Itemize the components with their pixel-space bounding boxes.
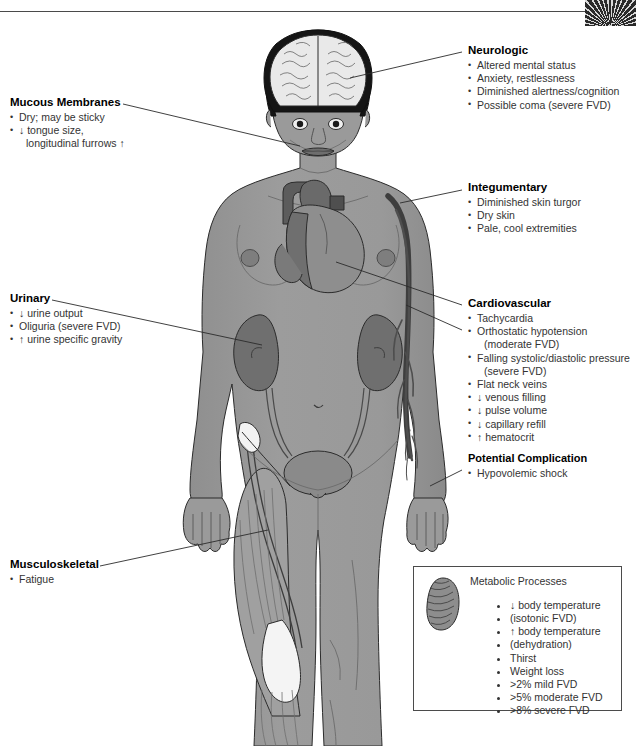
block-mucous-membranes: Mucous Membranes Dry; may be sticky ↓ to…: [10, 95, 125, 151]
bladder: [284, 451, 352, 495]
list-urinary: ↓ urine output Oliguria (severe FVD) ↑ u…: [10, 307, 122, 347]
mitochondrion-icon: [424, 576, 462, 632]
list-musculoskeletal: Fatigue: [10, 573, 99, 586]
metabolic-content: Metabolic Processes ↓ body temperature (…: [470, 575, 603, 728]
block-cardiovascular: Cardiovascular Tachycardia Orthostatic h…: [468, 296, 630, 480]
heading-metabolic-processes: Metabolic Processes: [470, 575, 603, 588]
list-item: Possible coma (severe FVD): [468, 99, 619, 112]
hand-right: [407, 498, 448, 551]
nipple-left: [241, 250, 259, 267]
heading-musculoskeletal: Musculoskeletal: [10, 557, 99, 572]
metabolic-processes-box: Metabolic Processes ↓ body temperature (…: [413, 566, 622, 711]
list-item: Diminished skin turgor: [468, 196, 581, 209]
list-item: ↑ urine specific gravity: [10, 333, 122, 346]
list-item-continuation: (severe FVD): [468, 365, 630, 378]
head: [264, 30, 372, 156]
list-metabolic: ↓ body temperature (isotonic FVD) ↑ body…: [470, 599, 603, 718]
list-item: Oliguria (severe FVD): [10, 320, 122, 333]
list-potential-complication: Hypovolemic shock: [468, 467, 630, 480]
heading-mucous-membranes: Mucous Membranes: [10, 95, 125, 110]
heading-urinary: Urinary: [10, 291, 122, 306]
list-item: Altered mental status: [468, 59, 619, 72]
list-item: Falling systolic/diastolic pressure: [468, 352, 630, 365]
list-item: Pale, cool extremities: [468, 222, 581, 235]
hand-left: [183, 498, 230, 551]
list-item: Orthostatic hypotension: [468, 325, 630, 338]
list-item-continuation: (dehydration): [510, 638, 603, 651]
list-item: ↓ tongue size,: [10, 124, 125, 137]
list-item: ↑ body temperature: [510, 625, 603, 638]
list-item: Thirst: [510, 652, 603, 665]
list-neurologic: Altered mental status Anxiety, restlessn…: [468, 59, 619, 112]
block-integumentary: Integumentary Diminished skin turgor Dry…: [468, 180, 581, 236]
list-item: ↓ venous filling: [468, 391, 630, 404]
list-item: Hypovolemic shock: [468, 467, 630, 480]
list-item: ↓ urine output: [10, 307, 122, 320]
heading-integumentary: Integumentary: [468, 180, 581, 195]
block-urinary: Urinary ↓ urine output Oliguria (severe …: [10, 291, 122, 347]
list-cardiovascular: Tachycardia Orthostatic hypotension (mod…: [468, 312, 630, 444]
nipple-right: [377, 250, 395, 267]
list-item: Dry skin: [468, 209, 581, 222]
diagram-page: Neurologic Altered mental status Anxiety…: [0, 0, 636, 746]
list-item: Fatigue: [10, 573, 99, 586]
list-item: Dry; may be sticky: [10, 111, 125, 124]
list-integumentary: Diminished skin turgor Dry skin Pale, co…: [468, 196, 581, 236]
list-item: Anxiety, restlessness: [468, 72, 619, 85]
list-item: Tachycardia: [468, 312, 630, 325]
list-item: ↓ pulse volume: [468, 404, 630, 417]
block-neurologic: Neurologic Altered mental status Anxiety…: [468, 43, 619, 112]
list-item: ↑ hematocrit: [468, 431, 630, 444]
list-item: Diminished alertness/cognition: [468, 85, 619, 98]
heading-neurologic: Neurologic: [468, 43, 619, 58]
list-item-continuation: >5% moderate FVD: [510, 691, 603, 704]
heading-cardiovascular: Cardiovascular: [468, 296, 630, 311]
list-item-continuation: >2% mild FVD: [510, 678, 603, 691]
list-item: ↓ body temperature: [510, 599, 603, 612]
heading-potential-complication: Potential Complication: [468, 451, 630, 466]
list-mucous-membranes: Dry; may be sticky ↓ tongue size, longit…: [10, 111, 125, 151]
block-musculoskeletal: Musculoskeletal Fatigue: [10, 557, 99, 586]
list-item-continuation: (isotonic FVD): [510, 612, 603, 625]
list-item: Flat neck veins: [468, 378, 630, 391]
list-item-continuation: >8% severe FVD: [510, 704, 603, 717]
list-item: ↓ capillary refill: [468, 418, 630, 431]
list-item-continuation: (moderate FVD): [468, 338, 630, 351]
list-item: Weight loss: [510, 665, 603, 678]
list-item-continuation: longitudinal furrows ↑: [10, 137, 125, 150]
